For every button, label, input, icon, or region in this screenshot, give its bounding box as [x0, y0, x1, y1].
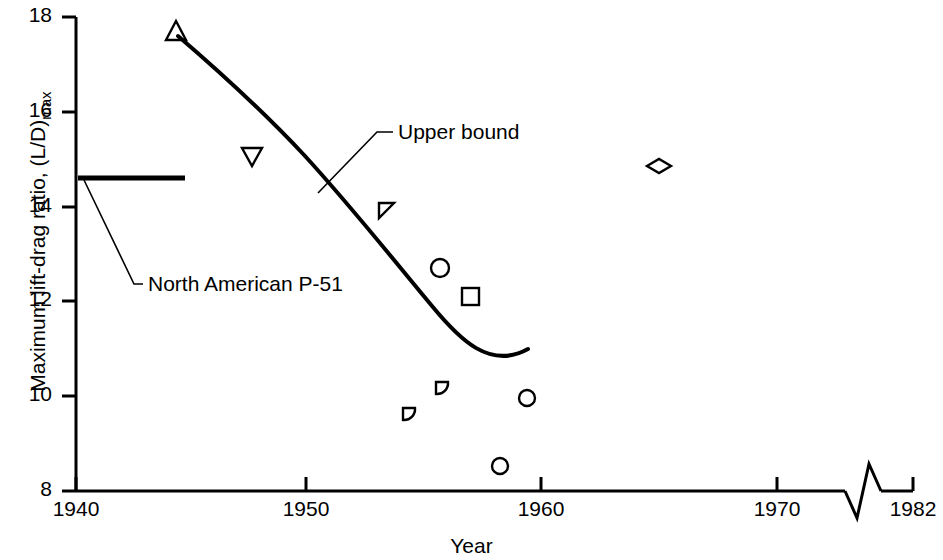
- marker-triangle-down: [242, 148, 262, 166]
- chart-plot-area: [0, 0, 943, 560]
- marker-circle-1956: [431, 259, 449, 277]
- x-tick-label-1960: 1960: [491, 497, 591, 521]
- annotation-north-american-p51: North American P-51: [148, 272, 343, 296]
- marker-circle-1959: [519, 390, 535, 406]
- x-tick-label-1940: 1940: [26, 497, 126, 521]
- y-axis-title-subscript: max: [37, 91, 54, 119]
- marker-halfcircle-1955: [436, 382, 448, 394]
- y-axis: [62, 17, 76, 491]
- marker-triangle-right-small: [379, 203, 394, 218]
- marker-square-1957: [462, 288, 479, 305]
- x-tick-label-1950: 1950: [256, 497, 356, 521]
- marker-halfcircle-1954: [403, 408, 415, 420]
- p51-leader-line: [84, 180, 143, 284]
- y-axis-title-main: Maximum lift-drag ratio, (L/D): [26, 120, 49, 392]
- upper-bound-curve: [178, 36, 528, 356]
- y-axis-title: Maximum lift-drag ratio, (L/D)max: [26, 32, 53, 452]
- annotation-upper-bound: Upper bound: [398, 120, 519, 144]
- y-tick-label-18: 18: [8, 3, 52, 27]
- marker-triangle-up: [166, 21, 186, 40]
- marker-diamond-1965: [647, 159, 671, 173]
- marker-circle-1958: [492, 458, 508, 474]
- x-tick-label-1970: 1970: [727, 497, 827, 521]
- x-tick-label-1982: 1982: [863, 497, 943, 521]
- chart-figure: 18 16 14 12 10 8 1940 1950 1960 1970 198…: [0, 0, 943, 560]
- x-axis-title: Year: [0, 534, 943, 558]
